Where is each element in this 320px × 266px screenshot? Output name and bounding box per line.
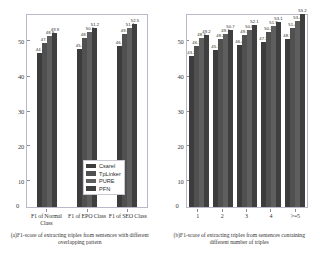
- tick-mark: [127, 209, 128, 212]
- y-tick-label: 50: [18, 37, 24, 44]
- legend-label: TpLinker: [99, 171, 121, 177]
- legend-row[interactable]: PFN: [86, 186, 121, 192]
- bar-groups-b: 43.246.148.349.245.148.249.750.746.449.3…: [187, 15, 307, 207]
- bar-group: 47.350.251.953.1: [259, 15, 283, 207]
- plot-area-b: 50 40 30 20 10 43.246.148.349.245.148.24…: [186, 14, 308, 208]
- tick-mark: [295, 209, 296, 212]
- x-tick-label: 3: [245, 213, 248, 219]
- bar-value-label: 52.1: [250, 20, 258, 24]
- tick-mark: [197, 209, 198, 212]
- chart-panel-a: 50 40 30 20 10 44.147.148.949.945.248.55…: [0, 0, 160, 250]
- x-tick-label: F1 of EPO Class: [68, 213, 106, 219]
- x-tick: >=5: [283, 209, 307, 220]
- bar-group: 45.148.249.750.7: [211, 15, 235, 207]
- y-tick-a-3: 20: [18, 142, 27, 149]
- bar-value-label: 55.2: [298, 9, 306, 13]
- y-tick-b-2: 30: [177, 108, 186, 115]
- bar[interactable]: 53.1: [276, 22, 281, 207]
- bar[interactable]: 49.9: [52, 33, 57, 207]
- bar-value-label: 51.2: [91, 23, 99, 27]
- tick-mark: [87, 209, 88, 212]
- legend-label: Csarel: [99, 163, 115, 169]
- bar[interactable]: 50.7: [228, 30, 233, 207]
- x-tick-label: 2: [221, 213, 224, 219]
- legend-swatch: [86, 186, 96, 191]
- x-tick: 3: [234, 209, 258, 220]
- x-tick-label: F1 of SEO Class: [109, 213, 147, 219]
- bar-group: 43.246.148.349.2: [187, 15, 211, 207]
- subcaption-a: (a)F1-score of extracting triples from s…: [6, 232, 154, 246]
- y-tick-label: 20: [177, 142, 183, 149]
- bar-wrapper: 49.2: [204, 15, 209, 207]
- legend-swatch: [86, 164, 96, 169]
- y-tick-a-1: 40: [18, 73, 27, 80]
- legend-swatch: [86, 179, 96, 184]
- x-tick: F1 of Normal Class: [26, 209, 67, 227]
- tick-mark: [46, 209, 47, 212]
- y-tick-a-0: 50: [18, 37, 27, 44]
- y-tick-b-1: 40: [177, 73, 186, 80]
- y-tick-label: 10: [18, 177, 24, 184]
- bar-wrapper: 53.1: [276, 15, 281, 207]
- bar-value-label: 52.5: [131, 19, 139, 23]
- x-tick: F1 of EPO Class: [67, 209, 108, 227]
- x-tick-label: 4: [269, 213, 272, 219]
- y-tick-b-3: 20: [177, 142, 186, 149]
- legend-a: CsarelTpLinkerPUREPFN: [83, 160, 125, 195]
- bar-group: 48.151.453.455.2: [283, 15, 307, 207]
- bar[interactable]: 55.2: [300, 14, 305, 207]
- legend-row[interactable]: PURE: [86, 178, 121, 184]
- x-tick-label: 1: [196, 213, 199, 219]
- bar[interactable]: 49.2: [204, 35, 209, 207]
- y-tick-a-4: 10: [18, 177, 27, 184]
- bar-wrapper: 52.1: [252, 15, 257, 207]
- legend-swatch: [86, 171, 96, 176]
- legend-row[interactable]: TpLinker: [86, 171, 121, 177]
- bar-wrapper: 50.7: [228, 15, 233, 207]
- legend-row[interactable]: Csarel: [86, 163, 121, 169]
- y-tick-label: 40: [177, 73, 183, 80]
- bar-wrapper: 52.5: [132, 15, 137, 207]
- bar[interactable]: 52.5: [132, 24, 137, 207]
- y-tick-label: 30: [18, 108, 24, 115]
- y-tick-label: 10: [177, 177, 183, 184]
- y-tick-label: 30: [177, 108, 183, 115]
- bar-value-label: 53.1: [274, 17, 282, 21]
- bar-group: 44.147.148.949.9: [27, 15, 67, 207]
- figure-container: 50 40 30 20 10 44.147.148.949.945.248.55…: [0, 0, 319, 266]
- x-tick: F1 of SEO Class: [107, 209, 148, 227]
- x-tick-label: F1 of Normal Class: [31, 213, 62, 226]
- y-axis-zero-b: 0: [176, 202, 179, 209]
- y-tick-a-2: 30: [18, 108, 27, 115]
- bar-group: 46.449.350.852.1: [235, 15, 259, 207]
- y-tick-b-0: 50: [177, 37, 186, 44]
- bar-wrapper: 49.9: [52, 15, 57, 207]
- bar-value-label: 49.2: [202, 30, 210, 34]
- x-axis-ticks-b: 1234>=5: [186, 209, 308, 220]
- x-tick: 2: [210, 209, 234, 220]
- bar[interactable]: 52.1: [252, 25, 257, 207]
- x-tick: 4: [259, 209, 283, 220]
- y-tick-label: 50: [177, 37, 183, 44]
- x-tick-label: >=5: [291, 213, 300, 219]
- y-tick-b-4: 10: [177, 177, 186, 184]
- y-axis-zero-a: 0: [16, 202, 19, 209]
- tick-mark: [246, 209, 247, 212]
- bar-value-label: 50.7: [226, 25, 234, 29]
- y-tick-label: 20: [18, 142, 24, 149]
- subcaption-b: (b)F1-score of extracting triples from s…: [166, 232, 314, 246]
- bar-value-label: 49.9: [51, 28, 59, 32]
- legend-label: PFN: [99, 186, 110, 192]
- bar-wrapper: 55.2: [300, 15, 305, 207]
- panels-row: 50 40 30 20 10 44.147.148.949.945.248.55…: [0, 0, 319, 250]
- x-tick: 1: [186, 209, 210, 220]
- x-axis-ticks-a: F1 of Normal ClassF1 of EPO ClassF1 of S…: [26, 209, 148, 227]
- chart-panel-b: 50 40 30 20 10 43.246.148.349.245.148.24…: [160, 0, 320, 250]
- tick-mark: [270, 209, 271, 212]
- y-tick-label: 40: [18, 73, 24, 80]
- tick-mark: [222, 209, 223, 212]
- legend-label: PURE: [99, 178, 115, 184]
